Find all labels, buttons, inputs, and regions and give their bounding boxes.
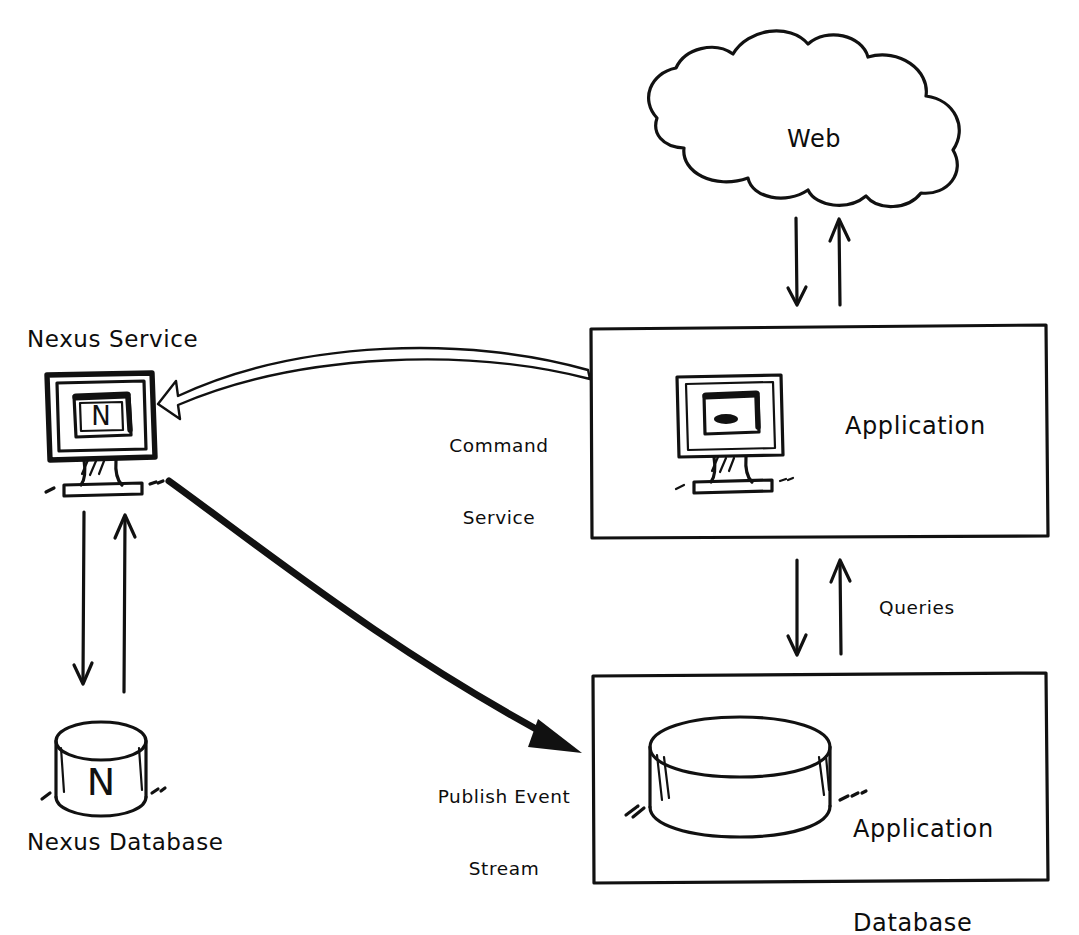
edge-label-publish-event-stream-line1: Publish Event [406, 785, 602, 809]
arrow-queries [788, 560, 850, 655]
edge-label-publish-event-stream-line2: Stream [406, 857, 602, 881]
arrow-web-application [788, 218, 849, 305]
monitor-icon-nexus-service: N [46, 373, 163, 496]
database-cylinder-icon-nexus: N [42, 722, 165, 816]
arrow-nexus-service-database [74, 512, 135, 692]
node-label-application: Application [845, 411, 986, 442]
monitor-icon-application [676, 375, 793, 493]
edge-label-publish-event-stream: Publish Event Stream [406, 737, 602, 929]
node-label-application-database: Application Database [853, 752, 994, 935]
node-label-application-database-line2: Database [853, 908, 994, 935]
node-label-nexus-service: Nexus Service [27, 325, 198, 355]
svg-text:N: N [91, 401, 110, 431]
svg-text:N: N [87, 760, 115, 804]
node-label-web: Web [787, 124, 841, 155]
edge-label-command-service-line2: Service [419, 506, 579, 530]
database-cylinder-icon-application [626, 717, 866, 837]
edge-label-queries: Queries [879, 596, 955, 620]
edge-label-command-service-line1: Command [419, 434, 579, 458]
node-label-nexus-database: Nexus Database [27, 828, 224, 858]
cloud-icon [649, 31, 960, 207]
edge-label-command-service: Command Service [419, 386, 579, 578]
node-label-application-database-line1: Application [853, 814, 994, 845]
